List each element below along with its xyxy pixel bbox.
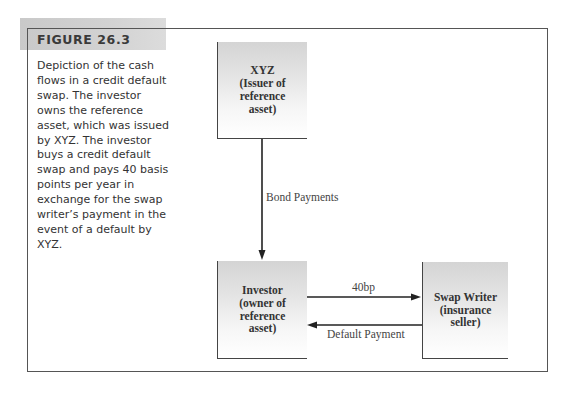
arrow-premium-40bp: [307, 294, 421, 301]
edge-label-default-payment: Default Payment: [327, 327, 405, 341]
edge-label-bond-payments: Bond Payments: [266, 190, 339, 204]
edge-label-40bp: 40bp: [352, 280, 375, 294]
arrow-bond-payments: [259, 139, 266, 260]
arrowhead-right-icon: [411, 294, 421, 301]
arrowhead-left-icon: [307, 322, 317, 329]
arrowhead-down-icon: [259, 250, 266, 260]
